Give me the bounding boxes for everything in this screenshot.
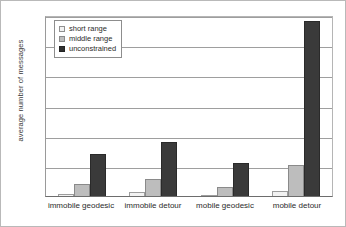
x-axis-tick-labels: immobile geodesicimmobile detourmobile g… xyxy=(45,201,333,210)
legend-label: short range xyxy=(69,25,107,33)
bar xyxy=(129,192,145,196)
chart-legend: short range middle range unconstrained xyxy=(54,20,122,58)
legend-label: unconstrained xyxy=(69,45,116,53)
legend-swatch-short-range-icon xyxy=(59,26,65,32)
bar-group xyxy=(263,17,329,196)
legend-label: middle range xyxy=(69,35,112,43)
bar xyxy=(304,21,320,196)
legend-swatch-unconstrained-icon xyxy=(59,46,65,52)
x-axis-tick-label: immobile geodesic xyxy=(48,201,114,210)
bar xyxy=(217,187,233,196)
legend-item: unconstrained xyxy=(59,44,116,54)
bar xyxy=(145,179,161,196)
bar xyxy=(201,195,217,197)
bar-group xyxy=(192,17,258,196)
bar-group xyxy=(120,17,186,196)
y-axis-title: average number of messages xyxy=(16,16,25,166)
legend-item: middle range xyxy=(59,34,116,44)
bar xyxy=(233,163,249,196)
bar xyxy=(288,165,304,196)
x-axis-tick-label: mobile detour xyxy=(264,201,330,210)
bar xyxy=(74,184,90,196)
legend-swatch-middle-range-icon xyxy=(59,36,65,42)
x-axis-tick-label: immobile detour xyxy=(120,201,186,210)
x-axis-tick-label: mobile geodesic xyxy=(192,201,258,210)
bar xyxy=(90,154,106,196)
bar xyxy=(272,191,288,196)
legend-item: short range xyxy=(59,24,116,34)
bar xyxy=(161,142,177,196)
bar-chart-figure: average number of messages 0500100015002… xyxy=(0,0,346,227)
bar xyxy=(58,194,74,196)
